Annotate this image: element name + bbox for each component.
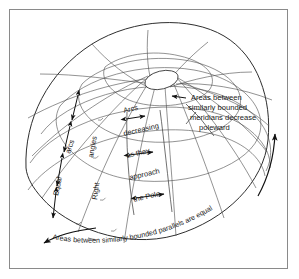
meridian-callout-text: Areas between similarly bounded meridian… [188, 93, 256, 132]
arrow-equal-arc-1 [72, 95, 78, 120]
center-line-decreasing: decreasing [122, 121, 159, 138]
callout-line-2: similarly bounded [188, 103, 247, 112]
right-angle-icon [100, 198, 106, 200]
equal-arcs-line-1: Equal [51, 176, 64, 197]
right-curved-arrow [258, 134, 275, 196]
center-line-approach: approach [128, 166, 160, 182]
right-angle-icon [111, 229, 117, 231]
equal-arcs-text: Equal arcs [51, 138, 76, 196]
meridians-group [28, 30, 272, 243]
center-line-as-they: as they [125, 146, 151, 160]
center-line-arcs: Arcs [122, 103, 139, 115]
right-angle-icon [98, 118, 103, 120]
parallel-05 [28, 130, 265, 190]
callout-line-4: poleward [199, 123, 230, 132]
meridian-12 [92, 44, 148, 87]
callout-line-3: meridians decrease [190, 113, 256, 122]
center-line-the-pole: the Pole [132, 189, 160, 204]
pole-ellipse [143, 67, 180, 93]
callout-line-1: Areas between [191, 93, 242, 102]
figure-container: Areas between similarly bounded meridian… [0, 0, 299, 279]
globe-diagram: Areas between similarly bounded meridian… [0, 0, 299, 279]
equal-arcs-line-2: arcs [63, 138, 76, 154]
right-angles-line-1: Right [90, 182, 101, 200]
